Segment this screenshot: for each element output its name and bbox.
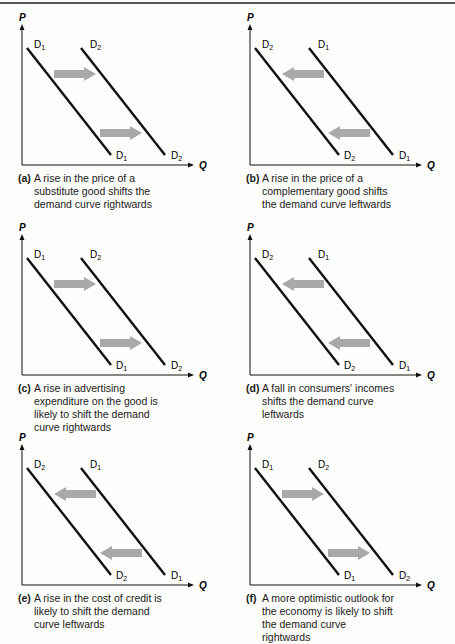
shift-arrow-icon bbox=[100, 546, 142, 560]
x-axis-arrowhead-icon bbox=[416, 583, 422, 588]
demand-curve-right bbox=[81, 258, 165, 365]
x-axis-arrowhead-icon bbox=[416, 163, 422, 168]
svg-text:Q: Q bbox=[427, 160, 435, 171]
demand-curve-right bbox=[309, 48, 393, 155]
panel-tag: (a) bbox=[18, 172, 31, 185]
y-axis-arrowhead-icon bbox=[20, 234, 25, 240]
demand-shift-diagram: PQD1D2D1D2 bbox=[0, 210, 227, 385]
svg-text:Q: Q bbox=[199, 370, 207, 381]
y-axis-arrowhead-icon bbox=[248, 444, 253, 450]
svg-text:D1: D1 bbox=[399, 360, 410, 372]
x-axis-arrowhead-icon bbox=[188, 373, 194, 378]
shift-arrow-icon bbox=[282, 277, 324, 291]
shift-arrow-icon bbox=[328, 126, 370, 140]
caption-text: A rise in the price of a substitute good… bbox=[18, 172, 168, 211]
svg-text:D1: D1 bbox=[116, 360, 127, 372]
shift-arrow-icon bbox=[54, 67, 96, 81]
y-axis-arrowhead-icon bbox=[248, 234, 253, 240]
demand-shift-diagram: PQD1D2D1D2 bbox=[0, 0, 227, 175]
panel-tag: (d) bbox=[246, 382, 259, 395]
shift-arrow-icon bbox=[100, 126, 142, 140]
panel-c: PQD1D2D1D2(c)A rise in advertising expen… bbox=[0, 210, 227, 430]
svg-text:D2: D2 bbox=[318, 459, 329, 471]
demand-shift-diagram: PQD2D1D2D1 bbox=[0, 420, 227, 595]
svg-text:D2: D2 bbox=[90, 249, 101, 261]
y-axis-arrowhead-icon bbox=[248, 24, 253, 30]
shift-arrow-icon bbox=[100, 336, 142, 350]
svg-text:D1: D1 bbox=[116, 150, 127, 162]
caption-text: A fall in consumers' incomes shifts the … bbox=[246, 382, 396, 421]
shift-arrow-icon bbox=[54, 277, 96, 291]
shift-arrow-icon bbox=[282, 487, 324, 501]
svg-text:Q: Q bbox=[427, 370, 435, 381]
shift-arrow-icon bbox=[328, 546, 370, 560]
svg-text:D1: D1 bbox=[318, 39, 329, 51]
panel-tag: (b) bbox=[246, 172, 259, 185]
demand-curve-left bbox=[27, 258, 111, 365]
panel-caption: (e)A rise in the cost of credit is likel… bbox=[18, 592, 168, 631]
panel-e: PQD2D1D2D1(e)A rise in the cost of credi… bbox=[0, 420, 227, 644]
svg-text:P: P bbox=[247, 12, 254, 23]
svg-text:D2: D2 bbox=[399, 570, 410, 582]
shift-arrow-icon bbox=[54, 487, 96, 501]
x-axis-arrowhead-icon bbox=[188, 163, 194, 168]
panel-tag: (c) bbox=[18, 382, 31, 395]
demand-curve-left bbox=[255, 468, 339, 575]
svg-text:D1: D1 bbox=[262, 459, 273, 471]
demand-curve-right bbox=[309, 468, 393, 575]
panel-f: PQD1D2D1D2(f)A more optimistic outlook f… bbox=[228, 420, 455, 644]
panel-caption: (d)A fall in consumers' incomes shifts t… bbox=[246, 382, 396, 421]
svg-text:D2: D2 bbox=[34, 459, 45, 471]
x-axis-arrowhead-icon bbox=[416, 373, 422, 378]
panel-caption: (b)A rise in the price of a complementar… bbox=[246, 172, 396, 211]
caption-text: A more optimistic outlook for the econom… bbox=[246, 592, 396, 644]
svg-text:D2: D2 bbox=[171, 360, 182, 372]
svg-text:Q: Q bbox=[199, 580, 207, 591]
svg-text:D1: D1 bbox=[34, 39, 45, 51]
svg-text:P: P bbox=[19, 432, 26, 443]
svg-text:D2: D2 bbox=[344, 150, 355, 162]
shift-arrow-icon bbox=[282, 67, 324, 81]
caption-text: A rise in the cost of credit is likely t… bbox=[18, 592, 168, 631]
svg-text:D2: D2 bbox=[116, 570, 127, 582]
svg-text:D1: D1 bbox=[318, 249, 329, 261]
svg-text:D2: D2 bbox=[90, 39, 101, 51]
y-axis-arrowhead-icon bbox=[20, 444, 25, 450]
panel-caption: (f)A more optimistic outlook for the eco… bbox=[246, 592, 396, 644]
svg-text:D1: D1 bbox=[399, 150, 410, 162]
panel-a: PQD1D2D1D2(a)A rise in the price of a su… bbox=[0, 0, 227, 220]
demand-curve-left bbox=[255, 258, 339, 365]
svg-text:D1: D1 bbox=[171, 570, 182, 582]
demand-curve-right bbox=[81, 48, 165, 155]
demand-curve-left bbox=[255, 48, 339, 155]
y-axis-arrowhead-icon bbox=[20, 24, 25, 30]
panel-caption: (a)A rise in the price of a substitute g… bbox=[18, 172, 168, 211]
svg-text:D1: D1 bbox=[34, 249, 45, 261]
demand-shift-diagram: PQD1D2D1D2 bbox=[228, 420, 455, 595]
demand-curve-left bbox=[27, 468, 111, 575]
panel-tag: (e) bbox=[18, 592, 31, 605]
svg-text:P: P bbox=[247, 432, 254, 443]
svg-text:Q: Q bbox=[427, 580, 435, 591]
svg-text:P: P bbox=[19, 222, 26, 233]
demand-shift-diagram: PQD2D1D2D1 bbox=[228, 210, 455, 385]
svg-text:P: P bbox=[247, 222, 254, 233]
x-axis-arrowhead-icon bbox=[188, 583, 194, 588]
demand-shift-diagram: PQD2D1D2D1 bbox=[228, 0, 455, 175]
svg-text:D2: D2 bbox=[262, 39, 273, 51]
svg-text:D2: D2 bbox=[262, 249, 273, 261]
demand-curve-right bbox=[81, 468, 165, 575]
panel-b: PQD2D1D2D1(b)A rise in the price of a co… bbox=[228, 0, 455, 220]
svg-text:D2: D2 bbox=[171, 150, 182, 162]
demand-curve-left bbox=[27, 48, 111, 155]
svg-text:D2: D2 bbox=[344, 360, 355, 372]
svg-text:D1: D1 bbox=[344, 570, 355, 582]
shift-arrow-icon bbox=[328, 336, 370, 350]
svg-text:P: P bbox=[19, 12, 26, 23]
panel-tag: (f) bbox=[246, 592, 257, 605]
panel-d: PQD2D1D2D1(d)A fall in consumers' income… bbox=[228, 210, 455, 430]
svg-text:D1: D1 bbox=[90, 459, 101, 471]
caption-text: A rise in the price of a complementary g… bbox=[246, 172, 396, 211]
demand-curve-right bbox=[309, 258, 393, 365]
svg-text:Q: Q bbox=[199, 160, 207, 171]
